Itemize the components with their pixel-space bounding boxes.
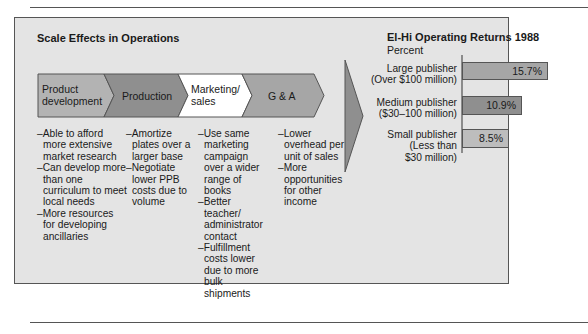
category-label-small: Small publisher (Less than $30 million) <box>347 129 457 163</box>
list-item: –Amortize plates over a larger base <box>126 128 196 162</box>
list-product-development: –Able to afford more extensive market re… <box>37 128 127 242</box>
list-marketing-sales: –Use same marketing campaign over a wide… <box>198 128 270 299</box>
list-item: –Negotiate lower PPB costs due to volume <box>126 162 196 208</box>
bar-large-publisher: 15.7% <box>462 62 548 80</box>
list-item: –Better teacher/ administrator contact <box>198 196 270 242</box>
list-item: –More resources for developing ancillari… <box>37 208 127 242</box>
category-label-medium: Medium publisher ($30–100 million) <box>347 97 457 120</box>
bar-medium-publisher: 10.9% <box>462 96 522 115</box>
bar-small-publisher: 8.5% <box>462 129 509 148</box>
bar-value-large: 15.7% <box>512 65 542 77</box>
list-production: –Amortize plates over a larger base –Neg… <box>126 128 196 208</box>
list-item: –Fulfillment costs lower due to more bul… <box>198 242 270 299</box>
list-item: –Can develop more than one curriculum to… <box>37 162 127 208</box>
category-label-large: Large publisher (Over $100 million) <box>347 63 457 86</box>
chevron-label-g-and-a: G & A <box>268 90 295 102</box>
chevron-label-marketing-sales: Marketing/ sales <box>191 83 240 107</box>
bottom-rule <box>30 322 588 323</box>
list-item: –Lower overhead per unit of sales <box>278 128 346 162</box>
bar-value-medium: 10.9% <box>486 99 516 111</box>
chevron-label-production: Production <box>122 90 172 102</box>
chart-subtitle: Percent <box>387 44 423 56</box>
chart-title: El-Hi Operating Returns 1988 <box>387 31 539 43</box>
list-item: –More opportunities for other income <box>278 162 346 208</box>
list-item: –Able to afford more extensive market re… <box>37 128 127 162</box>
bar-value-small: 8.5% <box>479 132 503 144</box>
chevron-label-product-development: Product development <box>42 83 102 107</box>
list-item: –Use same marketing campaign over a wide… <box>198 128 270 196</box>
list-g-and-a: –Lower overhead per unit of sales –More … <box>278 128 346 208</box>
